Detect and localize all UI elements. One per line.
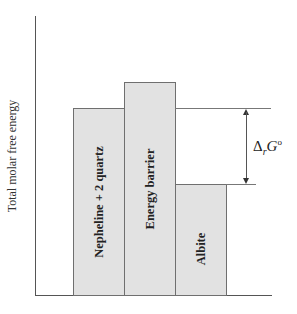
delta-g-label: ΔrGo: [253, 137, 282, 157]
bar-label-energy-barrier: Energy barrier: [143, 149, 158, 230]
delta-g-arrow: [246, 112, 247, 180]
delta-superscript: o: [277, 137, 282, 147]
delta-symbol: Δ: [253, 138, 263, 154]
bar-label-nepheline-quartz: Nepheline + 2 quartz: [92, 146, 107, 258]
bar-albite: Albite: [175, 184, 227, 296]
upper-reference-line: [175, 108, 271, 109]
bar-energy-barrier: Energy barrier: [124, 82, 176, 296]
y-axis-label-text: Total molar free energy: [5, 100, 20, 213]
delta-variable: G: [267, 138, 278, 154]
arrowhead-down-icon: [243, 178, 249, 184]
bar-nepheline-quartz: Nepheline + 2 quartz: [73, 108, 125, 296]
bar-label-albite: Albite: [194, 232, 209, 265]
lower-reference-line: [226, 184, 256, 185]
y-axis: [35, 16, 36, 296]
